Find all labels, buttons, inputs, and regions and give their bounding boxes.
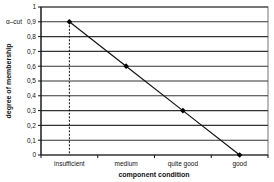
y-axis-title: degree of membership	[5, 43, 13, 118]
membership-chart: 00,10,20,30,40,50,60,70,80,91 insufficie…	[0, 0, 274, 182]
y-axis: 00,10,20,30,40,50,60,70,80,91	[27, 3, 41, 158]
y-tick-label: 0,7	[27, 48, 36, 55]
y-tick-label: 0,6	[27, 63, 36, 70]
y-tick-label: 0	[32, 151, 36, 158]
x-tick-label: medium	[115, 160, 138, 167]
x-tick-label: quite good	[168, 160, 199, 168]
y-tick-label: 0,2	[27, 122, 36, 129]
y-tick-label: 0,4	[27, 92, 36, 99]
y-tick-label: 1	[32, 3, 36, 10]
x-tick-label: insufficient	[54, 160, 85, 167]
alpha-cut-label: α–cut	[6, 18, 22, 25]
x-tick-label: good	[232, 160, 247, 168]
y-tick-label: 0,1	[27, 137, 36, 144]
x-axis: insufficientmediumquite goodgood	[41, 155, 268, 168]
y-tick-label: 0,3	[27, 107, 36, 114]
y-tick-label: 0,9	[27, 18, 36, 25]
y-tick-label: 0,5	[27, 77, 36, 84]
y-tick-label: 0,8	[27, 33, 36, 40]
x-axis-title: component condition	[118, 171, 189, 179]
